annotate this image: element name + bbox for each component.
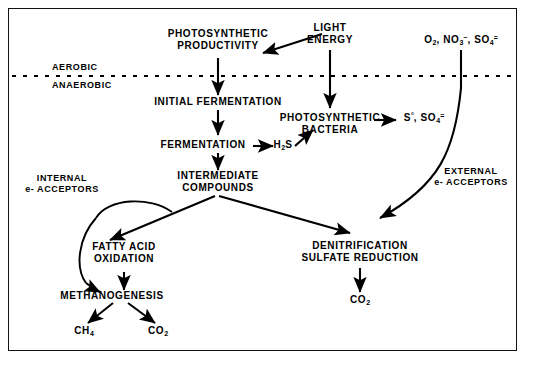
node-fatty-acid-oxidation: FATTY ACID OXIDATION [92,241,156,265]
node-light-energy: LIGHT ENERGY [307,22,353,46]
internal-acceptors-line2: e- ACCEPTORS [25,184,99,195]
edge-methanogenesis-to-co2 [128,303,155,323]
photosynthetic-bacteria-line2: BACTERIA [280,124,380,136]
node-methanogenesis: METHANOGENESIS [60,290,163,302]
node-photosynthetic-productivity: PHOTOSYNTHETIC PRODUCTIVITY [168,28,268,52]
node-intermediate-compounds: INTERMEDIATE COMPOUNDS [177,170,258,194]
node-denitrification-sulfate-reduction: DENITRIFICATION SULFATE REDUCTION [301,240,418,264]
zone-label-aerobic: AEROBIC [52,62,98,73]
node-methane: CH4 [74,325,94,338]
fatty-acid-oxidation-line2: OXIDATION [92,253,156,265]
light-energy-line1: LIGHT [307,22,353,34]
photosynthetic-bacteria-line1: PHOTOSYNTHETIC [280,112,380,124]
diagram-canvas: PHOTOSYNTHETIC PRODUCTIVITY LIGHT ENERGY… [0,0,533,368]
node-sulfur-products: S°, SO4= [404,112,445,125]
edge-external-acceptors-to-denitrification [380,88,461,218]
node-internal-acceptors: INTERNAL e- ACCEPTORS [25,173,99,194]
edge-intermediate-to-denitrification [219,196,350,233]
external-acceptors-line1: EXTERNAL [434,166,508,177]
edge-methanogenesis-to-ch4 [88,303,113,323]
internal-acceptors-line1: INTERNAL [25,173,99,184]
node-photosynthetic-bacteria: PHOTOSYNTHETIC BACTERIA [280,112,380,136]
node-co2-right: CO2 [350,294,370,307]
node-external-acceptors: EXTERNAL e- ACCEPTORS [434,166,508,187]
intermediate-compounds-line2: COMPOUNDS [177,182,258,194]
node-h2s: H2S [273,139,292,152]
node-oxidants: O2, NO3−, SO4= [424,34,498,47]
denitrification-line2: SULFATE REDUCTION [301,252,418,264]
external-acceptors-line2: e- ACCEPTORS [434,177,508,188]
denitrification-line1: DENITRIFICATION [301,240,418,252]
node-fermentation: FERMENTATION [160,139,245,151]
intermediate-compounds-line1: INTERMEDIATE [177,170,258,182]
photosynthetic-productivity-line2: PRODUCTIVITY [168,40,268,52]
light-energy-line2: ENERGY [307,34,353,46]
node-co2-left: CO2 [148,325,168,338]
photosynthetic-productivity-line1: PHOTOSYNTHETIC [168,28,268,40]
node-initial-fermentation: INITIAL FERMENTATION [154,96,282,108]
fatty-acid-oxidation-line1: FATTY ACID [92,241,156,253]
edge-internal-acceptors-arc [96,201,172,218]
zone-label-anaerobic: ANAEROBIC [52,80,112,91]
